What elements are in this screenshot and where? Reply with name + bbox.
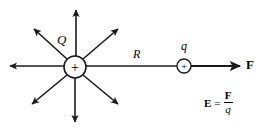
field-line-up-right: [83, 29, 118, 59]
field-line-down-right: [83, 75, 118, 104]
equation-numerator: F: [224, 90, 233, 102]
field-line-down-left: [32, 75, 67, 104]
equation-fraction: F q: [224, 90, 233, 115]
equation-denominator: q: [224, 103, 232, 115]
test-charge-plus-sign: +: [181, 61, 187, 72]
electric-field-diagram: + + Q R q F E = F q: [0, 0, 263, 131]
distance-label: R: [133, 48, 140, 60]
equation-equals-sign: =: [214, 97, 220, 109]
equation-lhs: E: [204, 97, 211, 109]
test-charge-label: q: [181, 40, 187, 52]
source-charge-label: Q: [57, 33, 66, 46]
force-label: F: [246, 58, 254, 71]
field-equation: E = F q: [204, 90, 233, 115]
source-charge-plus-sign: +: [71, 61, 79, 75]
